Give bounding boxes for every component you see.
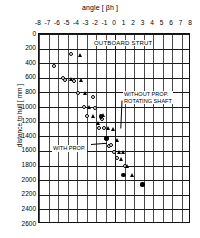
data-point-marker [121,173,125,177]
annotation-without-prop-line1: WITHOUT PROP. [124,91,172,98]
y-tick-label: 2000 [22,176,36,183]
data-point-marker [85,114,89,118]
x-axis-tick-labels: -8-7-6-5-4-3-2-1012345678 [38,19,190,29]
data-point-marker [52,64,56,68]
data-point-marker [76,91,80,95]
data-point-marker [87,105,91,109]
data-point-marker [69,77,73,81]
y-tick-label: 800 [25,88,36,95]
plot-title: OUTBOARD STRUT [93,40,153,46]
gridline-horizontal [39,195,189,196]
data-point-marker [125,164,129,168]
x-axis-title: angle [ βh ] [0,4,200,11]
y-tick-label: 2400 [22,205,36,212]
leader-line [91,143,107,145]
annotation-with-prop-line1: WITH PROP. [53,145,86,152]
gridline-horizontal [39,49,189,50]
y-tick-label: 200 [25,44,36,51]
y-tick-label: 1000 [22,103,36,110]
data-point-marker [69,52,73,56]
y-tick-label: 400 [25,59,36,66]
data-point-marker [112,150,116,154]
data-point-marker [83,91,87,95]
data-point-marker [104,136,108,140]
plot-area: OUTBOARD STRUT WITHOUT PROP. ROTATING SH… [38,33,190,223]
data-point-marker [96,121,100,125]
x-tick-label: 8 [183,19,197,27]
data-point-marker [119,157,123,161]
gridline-horizontal [39,136,189,137]
y-tick-label: 1200 [22,117,36,124]
data-point-marker [63,78,67,82]
annotation-without-prop-line2: ROTATING SHAFT [124,98,172,105]
data-point-marker [91,114,95,118]
data-point-marker [99,114,103,118]
gridline-horizontal [39,63,189,64]
y-tick-label: 1400 [22,132,36,139]
data-point-marker [140,182,144,186]
leader-line [120,100,122,128]
gridline-horizontal [39,180,189,181]
gridline-horizontal [39,209,189,210]
y-axis-tick-labels: 0200400600800100012001400160018002000220… [10,33,36,223]
data-point-marker [97,126,101,130]
data-point-marker [93,106,97,110]
data-point-marker [82,105,86,109]
y-tick-label: 1800 [22,161,36,168]
data-point-marker [109,143,113,147]
data-point-marker [130,173,134,177]
data-point-marker [72,79,76,83]
annotation-with-prop: WITH PROP. [52,145,87,152]
gridline-horizontal [39,122,189,123]
data-point-marker [111,127,115,131]
y-tick-label: 600 [25,73,36,80]
gridline-horizontal [39,34,189,35]
data-point-marker [79,78,83,82]
data-point-marker [115,138,119,142]
annotation-without-prop: WITHOUT PROP. ROTATING SHAFT [123,91,173,104]
data-point-marker [121,150,125,154]
data-point-marker [106,126,110,130]
gridline-horizontal [39,166,189,167]
y-tick-label: 1600 [22,146,36,153]
y-tick-label: 0 [32,30,36,37]
gridline-horizontal [39,107,189,108]
y-tick-label: 2200 [22,190,36,197]
y-tick-label: 2600 [22,220,36,227]
chart-figure: angle [ βh ] -8-7-6-5-4-3-2-1012345678 d… [0,0,200,238]
data-point-marker [91,95,95,99]
data-point-marker [78,53,82,57]
